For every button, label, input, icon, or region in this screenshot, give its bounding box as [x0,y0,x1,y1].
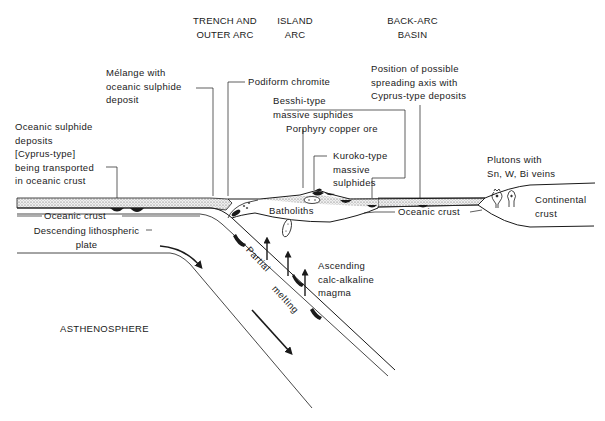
label-oceanic-sulphide: Oceanic sulphide deposits [Cyprus-type] … [15,120,94,188]
descending-arrow-bottom [252,310,290,352]
label-oceanic-crust-right: Oceanic crust [398,205,460,219]
label-asthenosphere: ASTHENOSPHERE [60,322,149,336]
label-descending-plate: Descending lithospheric plate [24,224,149,251]
label-batholiths: Batholiths [269,204,314,218]
label-continental-crust: Continental crust [535,193,586,220]
label-oceanic-crust-left: Oceanic crust [44,209,106,223]
batholith-pod-lower [281,218,293,237]
pluton-icons [492,189,516,208]
label-kuroko: Kuroko-type massive sulphides [333,149,388,190]
batholith-pod-upper [304,197,320,204]
header-island-arc: ISLAND ARC [270,14,320,41]
subduction-zone-diagram: TRENCH AND OUTER ARC ISLAND ARC BACK-ARC… [0,0,605,421]
label-porphyry: Porphyry copper ore [286,122,378,136]
header-back-arc: BACK-ARC BASIN [380,14,445,41]
label-ascending-magma: Ascending calc-alkaline magma [318,259,374,300]
label-spreading-axis: Position of possible spreading axis with… [371,62,466,103]
label-podiform-chromite: Podiform chromite [248,75,330,89]
label-melange: Mélange with oceanic sulphide deposit [106,66,182,107]
header-trench: TRENCH AND OUTER ARC [190,14,260,41]
label-besshi: Besshi-type massive suphides [273,94,353,121]
label-plutons: Plutons with Sn, W, Bi veins [487,153,555,180]
